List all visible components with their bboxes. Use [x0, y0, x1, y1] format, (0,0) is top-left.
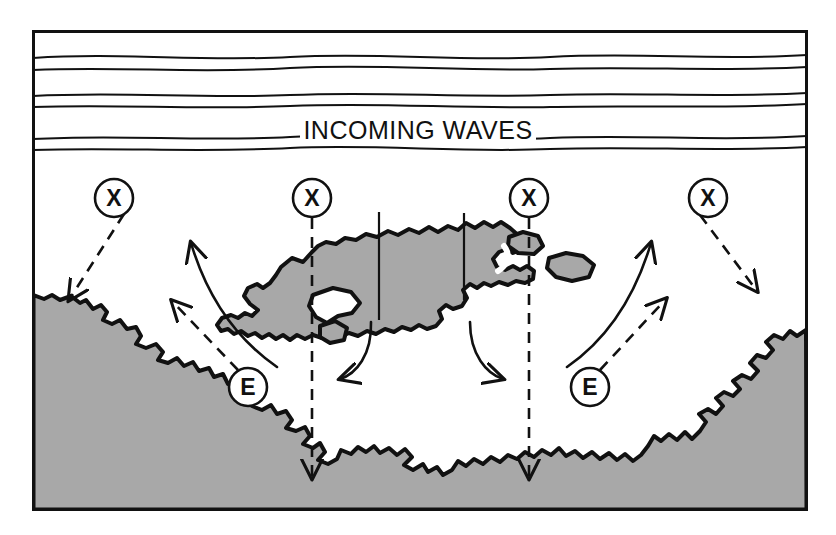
node-e-left[interactable]: E — [229, 368, 267, 406]
reef-islet-c — [508, 232, 543, 254]
node-e-right[interactable]: E — [571, 368, 609, 406]
diagram-canvas: INCOMING WAVES X — [0, 0, 836, 535]
coastal-process-diagram: INCOMING WAVES X — [0, 0, 836, 535]
node-x-left-inner[interactable]: X — [293, 179, 331, 217]
node-label: X — [521, 185, 537, 211]
reef-islet-b — [547, 253, 594, 281]
node-x-left-outer[interactable]: X — [95, 179, 133, 217]
node-label: E — [240, 374, 255, 400]
node-label: X — [106, 185, 122, 211]
node-label: E — [582, 374, 597, 400]
node-x-right-inner[interactable]: X — [510, 179, 548, 217]
node-label: X — [304, 185, 320, 211]
node-x-right-outer[interactable]: X — [689, 179, 727, 217]
node-label: X — [700, 185, 716, 211]
reef-islet-a — [320, 321, 347, 343]
wave-label: INCOMING WAVES — [303, 116, 532, 144]
